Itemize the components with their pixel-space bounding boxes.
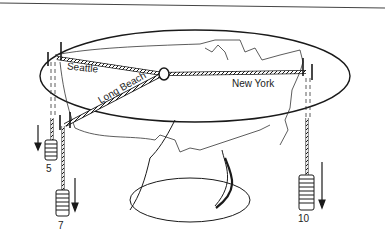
rope-new-york — [163, 72, 306, 74]
arrow-down-icon — [319, 162, 325, 208]
table-pedestal — [130, 120, 250, 222]
weight-long-beach — [56, 190, 69, 216]
weight-label-seattle: 5 — [46, 163, 52, 174]
label-new-york: New York — [232, 78, 274, 89]
rope-long-beach — [65, 74, 163, 125]
center-ring — [159, 68, 169, 80]
us-map-outline — [55, 40, 303, 152]
arrow-down-icon — [72, 178, 78, 211]
top-rule — [0, 3, 385, 8]
weighted-string-table-diagram — [0, 0, 385, 242]
weight-seattle — [45, 140, 57, 160]
hanging-strings — [52, 118, 307, 190]
weight-new-york — [299, 175, 314, 210]
arrow-down-icon — [35, 125, 41, 150]
weight-label-long-beach: 7 — [58, 220, 64, 231]
weight-label-new-york: 10 — [298, 213, 309, 224]
